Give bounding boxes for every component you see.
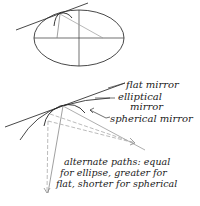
diagram-canvas: flat mirror elliptical mirror spherical …	[0, 0, 200, 206]
spherical-mirror-curve	[44, 105, 85, 126]
leader-flat	[108, 83, 125, 88]
label-spherical-mirror: spherical mirror	[110, 113, 194, 124]
dashed-path-3	[47, 121, 48, 193]
dashed-path-1	[48, 121, 135, 143]
leader-spherical-arrowhead	[90, 108, 94, 113]
caption-line-3: flat, shorter for spherical	[55, 178, 177, 189]
focal-ray-right	[60, 14, 103, 38]
leader-spherical-arrow	[90, 110, 110, 118]
focal-ray-left	[57, 14, 60, 38]
ellipse-figure	[16, 3, 124, 66]
label-flat-mirror: flat mirror	[125, 79, 180, 90]
label-elliptical-2: mirror	[130, 101, 164, 112]
caption-line-1: alternate paths: equal	[64, 156, 170, 167]
caption-line-2: for ellipse, greater for	[59, 167, 168, 178]
tangent-line	[16, 3, 88, 30]
